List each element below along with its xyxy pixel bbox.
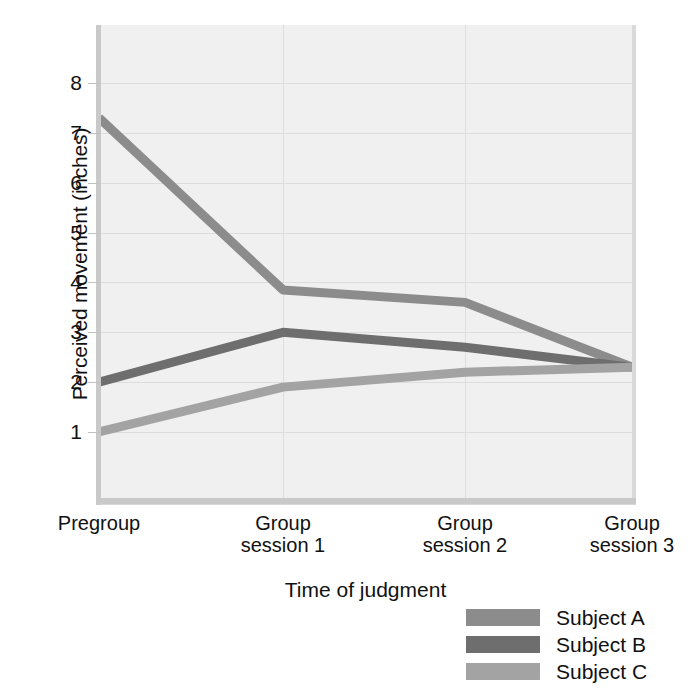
x-axis-tick-label-line: Group	[552, 512, 700, 534]
x-axis-tick-label-line: session 1	[203, 534, 363, 556]
legend-label: Subject C	[556, 660, 647, 684]
data-series-layer	[99, 25, 632, 500]
y-axis-tick-label: 1	[42, 421, 82, 442]
legend-swatch	[466, 636, 540, 653]
y-axis-tick	[88, 183, 100, 184]
y-axis-tick	[88, 332, 100, 333]
line-chart-figure: Perceived movement (inches) 12345678 Pre…	[0, 0, 700, 692]
legend-label: Subject B	[556, 633, 646, 657]
y-axis-line	[96, 25, 101, 505]
y-axis-tick-label: 2	[42, 371, 82, 392]
legend-item: Subject A	[466, 604, 647, 631]
y-axis-tick-label: 4	[42, 271, 82, 292]
x-axis-title: Time of judgment	[99, 578, 632, 602]
y-axis-tick	[88, 382, 100, 383]
series-line	[99, 367, 632, 432]
y-axis-tick	[88, 282, 100, 283]
x-axis-tick-label-line: Group	[385, 512, 545, 534]
y-axis-tick-label: 3	[42, 321, 82, 342]
x-axis-tick-label: Groupsession 3	[552, 512, 700, 557]
x-axis-line	[96, 498, 636, 504]
x-axis-tick-label: Groupsession 1	[203, 512, 363, 557]
legend-label: Subject A	[556, 606, 645, 630]
x-axis-tick-label-line: Group	[203, 512, 363, 534]
y-axis-tick	[88, 133, 100, 134]
chart-legend: Subject ASubject BSubject C	[466, 604, 647, 685]
x-axis-tick-label-line: session 3	[552, 534, 700, 556]
y-axis-tick	[88, 233, 100, 234]
y-axis-tick-label: 6	[42, 172, 82, 193]
y-axis-tick-label: 8	[42, 72, 82, 93]
y-axis-tick-label: 5	[42, 222, 82, 243]
legend-item: Subject C	[466, 658, 647, 685]
y-axis-tick	[88, 83, 100, 84]
x-axis-tick-label-line: Pregroup	[19, 512, 179, 534]
series-line	[99, 118, 632, 367]
legend-item: Subject B	[466, 631, 647, 658]
y-axis-title: Perceived movement (inches)	[68, 54, 92, 474]
legend-swatch	[466, 663, 540, 680]
x-axis-tick-label: Groupsession 2	[385, 512, 545, 557]
legend-swatch	[466, 609, 540, 626]
y-axis-tick-label: 7	[42, 122, 82, 143]
x-axis-tick-label: Pregroup	[19, 512, 179, 534]
y-axis-tick	[88, 432, 100, 433]
x-axis-tick-label-line: session 2	[385, 534, 545, 556]
